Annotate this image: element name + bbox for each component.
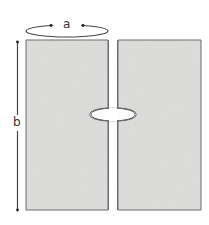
width-label: a bbox=[63, 17, 70, 31]
width-dot-left bbox=[50, 24, 53, 27]
diagram-canvas bbox=[0, 0, 209, 225]
height-label: b bbox=[13, 115, 21, 129]
width-dot-right bbox=[82, 24, 85, 27]
right-panel bbox=[118, 40, 201, 210]
left-panel bbox=[26, 40, 108, 210]
height-dot-top bbox=[16, 41, 19, 44]
height-dot-bottom bbox=[16, 209, 19, 212]
